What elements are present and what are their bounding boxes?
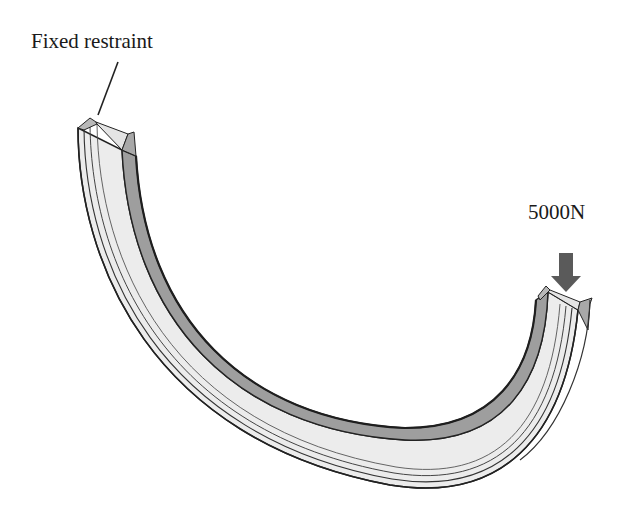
curved-beam-figure xyxy=(0,0,632,524)
diagram-canvas: Fixed restraint 5000N xyxy=(0,0,632,524)
beam-web-face xyxy=(78,128,578,488)
beam-inner-flange xyxy=(122,150,548,440)
load-arrow-icon xyxy=(551,253,581,292)
curved-beam xyxy=(78,118,592,488)
fixed-restraint-label: Fixed restraint xyxy=(31,31,153,52)
fixed-restraint-leader-line xyxy=(98,62,118,115)
load-label: 5000N xyxy=(528,202,585,223)
